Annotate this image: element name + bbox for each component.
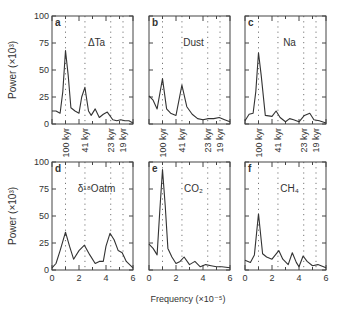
x-tick-label: 6 [323,273,328,283]
spectrum-line [245,214,326,268]
x-axis-label: Frequency (×10⁻⁵) [150,294,225,304]
y-tick-label: 75 [39,184,49,194]
panel-a: aΔTa0255075100Power (×10³)100 kyr41 kyr2… [7,11,133,158]
spectrum-line [149,79,230,122]
panel-d: dδ¹⁸Oatm0255075100Power (×10³)0246 [7,157,136,283]
panel-frame [52,162,133,270]
period-label: 23 kyr [299,128,309,153]
x-tick-label: 4 [296,273,301,283]
period-label: 41 kyr [177,128,187,153]
x-tick-label: 2 [173,273,178,283]
x-tick-label: 2 [269,273,274,283]
y-tick-label: 75 [39,38,49,48]
period-label: 100 kyr [254,128,264,158]
x-tick-label: 2 [76,273,81,283]
period-label: 23 kyr [106,128,116,153]
x-tick-label: 0 [242,273,247,283]
panel-title: δ¹⁸Oatm [78,183,116,194]
y-tick-label: 25 [39,238,49,248]
y-tick-label: 25 [39,92,49,102]
y-tick-label: 50 [39,65,49,75]
panel-title: Na [283,37,296,48]
spectrum-line [245,53,326,123]
y-axis-label: Power (×10³) [7,187,18,245]
y-tick-label: 100 [34,11,49,21]
x-tick-label: 4 [200,273,205,283]
spectrum-line [52,51,133,123]
figure: aΔTa0255075100Power (×10³)100 kyr41 kyr2… [0,0,337,318]
y-tick-label: 50 [39,211,49,221]
period-label: 100 kyr [158,128,168,158]
panel-letter: d [55,163,61,174]
panel-title: ΔTa [88,37,106,48]
x-tick-label: 0 [146,273,151,283]
period-label: 100 kyr [61,128,71,158]
period-label: 41 kyr [80,128,90,153]
spectrum-line [52,232,133,268]
panel-b: bDust100 kyr41 kyr23 kyr19 kyr [149,16,230,158]
x-tick-label: 6 [227,273,232,283]
panel-letter: a [55,17,61,28]
panel-frame [245,162,326,270]
panel-c: cNa100 kyr41 kyr23 kyr19 kyr [245,16,326,158]
panel-title: CO₂ [184,183,203,194]
x-tick-label: 4 [103,273,108,283]
y-tick-label: 0 [44,119,49,129]
panel-title: Dust [183,37,204,48]
x-tick-label: 6 [130,273,135,283]
panel-letter: f [248,163,252,174]
panel-letter: c [248,17,254,28]
period-label: 19 kyr [118,128,128,153]
y-tick-label: 0 [44,265,49,275]
period-label: 41 kyr [273,128,283,153]
x-tick-label: 0 [49,273,54,283]
y-tick-label: 100 [34,157,49,167]
panel-letter: e [152,163,158,174]
panel-frame [149,162,230,270]
panel-title: CH₄ [280,183,299,194]
panel-frame [149,16,230,124]
y-axis-label: Power (×10³) [7,41,18,99]
panel-letter: b [152,17,158,28]
panel-e: eCO₂0246 [146,162,232,283]
panel-f: fCH₄0246 [242,162,328,283]
period-label: 23 kyr [203,128,213,153]
period-label: 19 kyr [311,128,321,153]
period-label: 19 kyr [215,128,225,153]
